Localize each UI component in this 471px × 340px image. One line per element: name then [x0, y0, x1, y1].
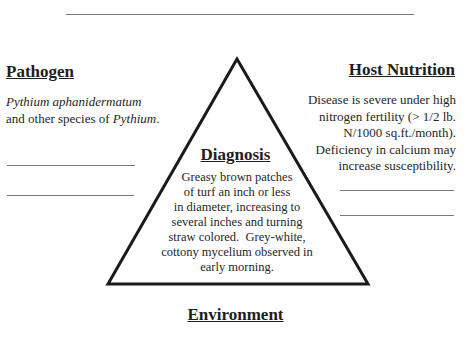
- host-nutrition-line: N/1000 sq.ft./month).: [308, 125, 456, 142]
- host-nutrition-line: nitrogen fertility (> 1/2 lb.: [308, 109, 456, 126]
- diagnosis-line: Greasy brown patches: [137, 170, 337, 185]
- pathogen-species: Pythium aphanidermatum: [6, 94, 141, 109]
- diagnosis-line: several inches and turning: [137, 215, 337, 230]
- pathogen-line2-prefix: and other species of: [6, 111, 113, 126]
- pathogen-text: Pythium aphanidermatum and other species…: [6, 93, 159, 127]
- pathogen-line2-suffix: .: [156, 111, 159, 126]
- diagnosis-line: cottony mycelium observed in: [137, 245, 337, 260]
- pathogen-blank-line-1: [7, 165, 135, 166]
- diagnosis-line: straw colored. Grey-white,: [137, 230, 337, 245]
- diagnosis-line: early morning.: [137, 260, 337, 275]
- diagnosis-line: of turf an inch or less: [137, 185, 337, 200]
- diagnosis-text: Greasy brown patches of turf an inch or …: [137, 170, 337, 275]
- host-nutrition-heading: Host Nutrition: [349, 60, 455, 80]
- diagnosis-line: in diameter, increasing to: [137, 200, 337, 215]
- diagnosis-heading: Diagnosis: [0, 145, 471, 165]
- host-nutrition-blank-line-2: [340, 215, 454, 216]
- pathogen-genus: Pythium: [113, 111, 156, 126]
- pathogen-heading: Pathogen: [6, 62, 74, 82]
- environment-heading: Environment: [0, 305, 471, 325]
- host-nutrition-line: Disease is severe under high: [308, 92, 456, 109]
- host-nutrition-blank-line-1: [340, 190, 454, 191]
- pathogen-blank-line-2: [7, 195, 134, 196]
